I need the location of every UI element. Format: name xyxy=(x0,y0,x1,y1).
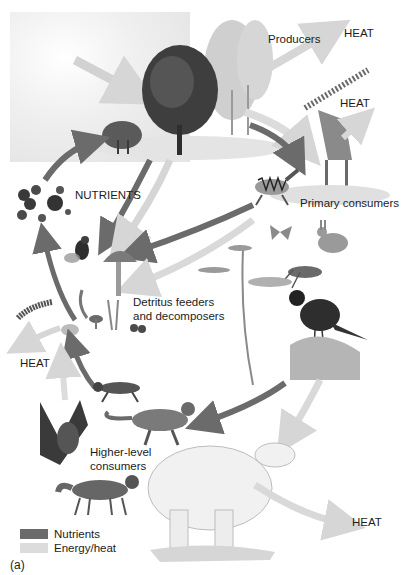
label-primary-consumers: Primary consumers xyxy=(300,197,399,210)
fox-icon xyxy=(58,475,139,515)
butterfly-icon xyxy=(270,225,292,240)
detritus-patch xyxy=(61,324,79,336)
millipede-icon xyxy=(18,302,52,318)
energy-arrow-primary-higher xyxy=(288,380,320,437)
fly-icon xyxy=(64,236,89,263)
legend-item-nutrients: Nutrients xyxy=(20,527,116,541)
energy-arrow-higher-detritus xyxy=(62,360,65,400)
label-detritus-line2: and decomposers xyxy=(133,310,224,323)
nutrients-molecules-icon xyxy=(17,185,71,222)
label-detritus-line1: Detritus feeders xyxy=(133,296,214,309)
nutrient-arrow-detritus-nutrients xyxy=(44,237,75,320)
hyena-icon xyxy=(93,382,140,402)
legend-label-energy: Energy/heat xyxy=(54,542,116,554)
legend: Nutrients Energy/heat xyxy=(20,527,116,555)
cheetah-icon xyxy=(106,402,195,445)
legend-swatch-energy xyxy=(20,543,48,553)
legend-item-energy: Energy/heat xyxy=(20,541,116,555)
nutrient-arrow-primary-higher xyxy=(202,383,285,423)
label-producers: Producers xyxy=(268,33,320,46)
panel-label: (a) xyxy=(10,558,25,572)
label-heat-primary: HEAT xyxy=(340,97,370,110)
diagram-illustration xyxy=(0,0,403,575)
label-heat-higher: HEAT xyxy=(352,516,382,529)
label-higher-line1: Higher-level xyxy=(90,446,151,459)
legend-label-nutrients: Nutrients xyxy=(54,528,100,540)
energy-arrow-higher-heat xyxy=(255,485,345,524)
label-heat-producers: HEAT xyxy=(344,27,374,40)
legend-swatch-nutrients xyxy=(20,529,48,539)
rock-icon xyxy=(290,336,360,380)
nutrient-arrow-higher-detritus xyxy=(72,343,95,388)
mushroom-icon xyxy=(103,251,137,296)
energy-arrow-detritus-heat xyxy=(22,328,60,345)
label-heat-detritus: HEAT xyxy=(20,357,50,370)
owl-icon xyxy=(40,400,88,465)
ecosystem-nutrient-energy-diagram: Producers HEAT HEAT NUTRIENTS Primary co… xyxy=(0,0,403,575)
giraffe-icon xyxy=(305,70,368,195)
label-nutrients: NUTRIENTS xyxy=(75,189,141,202)
rabbit-icon xyxy=(317,220,348,253)
label-higher-line2: consumers xyxy=(90,460,146,473)
ice-floe xyxy=(150,545,275,562)
